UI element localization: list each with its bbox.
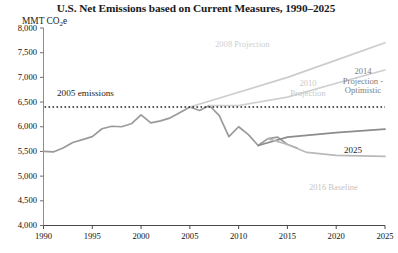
annotation-2025: 2025 bbox=[344, 145, 362, 155]
y-axis-ticks bbox=[40, 28, 44, 226]
y-axis-tick-label: 7,500 bbox=[3, 48, 37, 57]
x-axis-tick-label: 2005 bbox=[170, 232, 210, 241]
axes-group bbox=[40, 28, 385, 229]
annotation-2010-projection: 2010 Projection bbox=[281, 79, 335, 98]
y-axis-tick-label: 4,000 bbox=[3, 221, 37, 230]
y-axis-tick-label: 5,500 bbox=[3, 147, 37, 156]
y-axis-tick-label: 5,000 bbox=[3, 172, 37, 181]
x-axis-tick-label: 1995 bbox=[72, 232, 112, 241]
annotation-2005-emissions: 2005 emissions bbox=[57, 88, 114, 98]
x-axis-tick-label: 2000 bbox=[121, 232, 161, 241]
x-axis-tick-label: 2010 bbox=[219, 232, 259, 241]
annotation-2014-projection-line3: Optimistic bbox=[334, 86, 392, 96]
x-axis-tick-label: 1990 bbox=[24, 232, 64, 241]
y-axis-tick-label: 6,500 bbox=[3, 98, 37, 107]
x-axis-tick-label: 2020 bbox=[316, 232, 356, 241]
x-axis-ticks bbox=[44, 226, 386, 230]
y-axis-tick-label: 6,000 bbox=[3, 122, 37, 131]
y-axis-tick-label: 8,000 bbox=[3, 24, 37, 33]
y-axis-tick-label: 4,500 bbox=[3, 196, 37, 205]
annotation-2010-projection-line2: Projection bbox=[281, 89, 335, 99]
series-group bbox=[44, 43, 386, 157]
y-axis-tick-label: 7,000 bbox=[3, 73, 37, 82]
annotation-2016-baseline: 2016 Baseline bbox=[309, 183, 358, 193]
x-axis-tick-label: 2025 bbox=[365, 232, 398, 241]
x-axis-tick-label: 2015 bbox=[267, 232, 307, 241]
series-line bbox=[268, 139, 385, 157]
annotation-2014-projection-optimistic: 2014 Projection - Optimistic bbox=[334, 67, 392, 96]
annotation-2008-projection: 2008 Projection bbox=[215, 40, 270, 50]
